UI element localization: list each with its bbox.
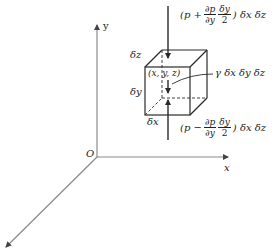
point-coordinates-label: (x, y, z)	[148, 69, 180, 78]
fluid-element-cube	[145, 50, 207, 115]
bottom-force-expression: (p − ∂p ∂y δy 2 ) δx δz	[179, 117, 267, 138]
top-force-open: (p +	[180, 9, 202, 20]
weight-label: γ δx δy δz	[215, 68, 265, 78]
y-axis-label: y	[103, 21, 109, 31]
origin-label: O	[86, 149, 94, 159]
dz-label: δz	[130, 50, 141, 60]
z-axis	[6, 157, 97, 247]
bottom-force-fraction-dy-2: δy 2	[218, 117, 231, 138]
bottom-force-close: ) δx δz	[233, 122, 266, 133]
bottom-force-open: (p −	[180, 122, 202, 133]
hidden-edge	[145, 98, 162, 115]
x-axis-label: x	[224, 163, 230, 173]
top-force-fraction-dy-2: δy 2	[218, 4, 231, 25]
top-force-fraction-dp-dy: ∂p ∂y	[204, 4, 216, 25]
dy-label: δy	[130, 87, 142, 97]
top-force-expression: (p + ∂p ∂y δy 2 ) δx δz	[179, 4, 267, 25]
bottom-force-fraction-dp-dy: ∂p ∂y	[204, 117, 216, 138]
dx-label: δx	[147, 117, 159, 127]
top-force-close: ) δx δz	[233, 9, 266, 20]
